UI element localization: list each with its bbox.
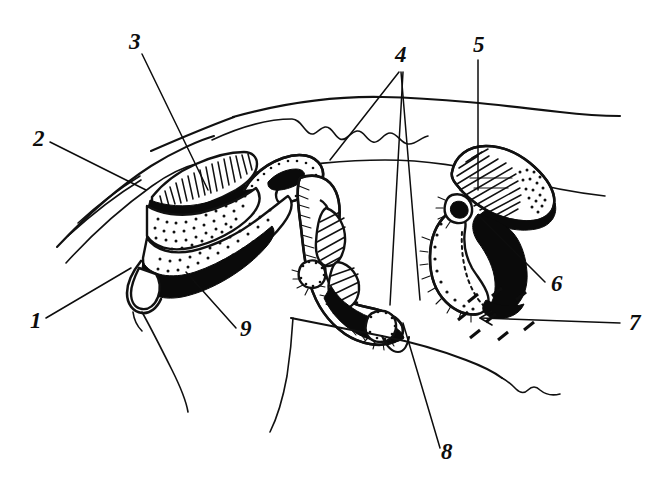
figure-container: 1 2 3 4 5 6 7 8 9: [0, 0, 665, 491]
label-2: 2: [32, 126, 45, 151]
label-9: 9: [240, 316, 252, 341]
label-7: 7: [629, 310, 642, 335]
label-4: 4: [394, 42, 407, 67]
label-5: 5: [473, 32, 485, 57]
label-6: 6: [551, 271, 563, 296]
label-8: 8: [441, 439, 453, 464]
label-3: 3: [128, 29, 141, 54]
label-1: 1: [30, 308, 42, 333]
anatomical-diagram-svg: 1 2 3 4 5 6 7 8 9: [0, 0, 665, 491]
